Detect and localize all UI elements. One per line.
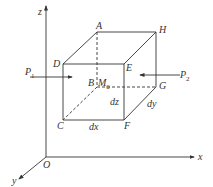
- origin-label: O: [43, 160, 50, 170]
- dz-label: dz: [110, 97, 119, 107]
- force-p1-label: P1: [25, 67, 35, 80]
- cube-diagram: [0, 0, 213, 187]
- vertex-c-label: C: [57, 121, 64, 131]
- vertex-e-label: E: [126, 63, 132, 73]
- hidden-edge-BC: [63, 87, 97, 120]
- dx-label: dx: [89, 122, 98, 132]
- vertex-g-label: G: [159, 81, 166, 91]
- force-p2-label: P2: [180, 70, 190, 83]
- y-axis: [19, 157, 46, 179]
- vertex-h-label: H: [159, 25, 166, 35]
- vertex-f-label: F: [124, 121, 130, 131]
- cube-top-edges: [63, 32, 156, 64]
- vertex-d-label: D: [53, 59, 60, 69]
- x-axis-label: x: [198, 152, 202, 162]
- z-axis-label: z: [38, 7, 42, 17]
- vertex-a-label: A: [96, 21, 102, 31]
- vertex-b-label: B: [88, 78, 94, 88]
- cube-front-face: [63, 64, 124, 120]
- center-point-label: M0: [98, 78, 110, 91]
- dy-label: dy: [147, 99, 156, 109]
- y-axis-label: y: [12, 176, 16, 186]
